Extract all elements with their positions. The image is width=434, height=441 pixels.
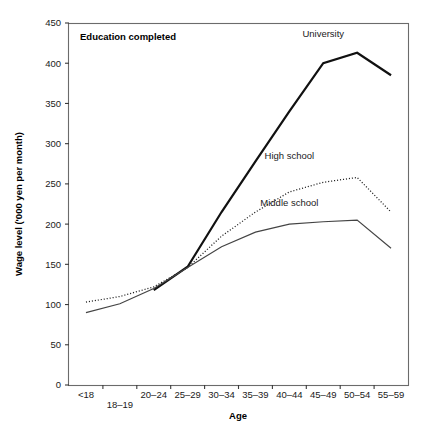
plot-frame	[69, 24, 409, 386]
y-tick-label: 350	[45, 98, 61, 109]
series-line-university	[154, 53, 391, 290]
x-axis-category-label: 50–54	[344, 389, 370, 400]
data-series-group	[86, 53, 391, 313]
x-axis-category-label: 35–39	[242, 389, 268, 400]
x-axis-category-label: 25–29	[174, 389, 200, 400]
y-tick-label: 50	[50, 339, 61, 350]
series-annotation-label: Middle school	[260, 197, 318, 208]
y-axis-title: Wage level ('000 yen per month)	[13, 132, 24, 276]
wage-by-age-line-chart: 050100150200250300350400450 <1818–1920–2…	[0, 0, 434, 441]
x-axis-category-label: <18	[78, 389, 94, 400]
y-tick-label: 0	[56, 379, 61, 390]
y-tick-label: 200	[45, 219, 61, 230]
y-tick-label: 400	[45, 58, 61, 69]
x-axis-category-label: 45–49	[310, 389, 336, 400]
y-tick-label: 150	[45, 259, 61, 270]
x-axis-category-label: 55–59	[378, 389, 404, 400]
panel-title: Education completed	[80, 31, 176, 42]
y-tick-label: 450	[45, 17, 61, 28]
chart-figure: 050100150200250300350400450 <1818–1920–2…	[0, 0, 434, 441]
y-axis-ticks: 050100150200250300350400450	[45, 17, 69, 390]
x-axis-labels: <1818–1920–2425–2930–3435–3940–4445–4950…	[78, 389, 404, 410]
series-annotation-label: University	[302, 28, 344, 39]
x-axis-category-label: 18–19	[107, 399, 133, 410]
y-tick-label: 250	[45, 178, 61, 189]
series-annotation-label: High school	[265, 150, 315, 161]
y-tick-label: 300	[45, 138, 61, 149]
x-axis-category-label: 20–24	[141, 389, 167, 400]
x-axis-title: Age	[229, 410, 247, 421]
series-line-middle-school	[86, 220, 391, 313]
x-axis-category-label: 30–34	[208, 389, 234, 400]
y-tick-label: 100	[45, 299, 61, 310]
x-axis-category-label: 40–44	[276, 389, 302, 400]
